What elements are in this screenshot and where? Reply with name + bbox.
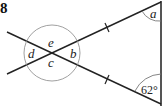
- upper-slanted-line: [7, 2, 161, 74]
- geometry-diagram: 8 a 62° e c d b: [0, 0, 164, 108]
- angle-b-label: b: [70, 46, 77, 61]
- angle-c-label: c: [48, 55, 54, 70]
- angle-a-label: a: [150, 6, 157, 21]
- angle-given-label: 62°: [141, 83, 158, 97]
- question-number: 8: [0, 0, 8, 16]
- angle-d-label: d: [28, 46, 35, 61]
- angle-e-label: e: [48, 35, 54, 50]
- lower-slanted-line: [7, 32, 161, 104]
